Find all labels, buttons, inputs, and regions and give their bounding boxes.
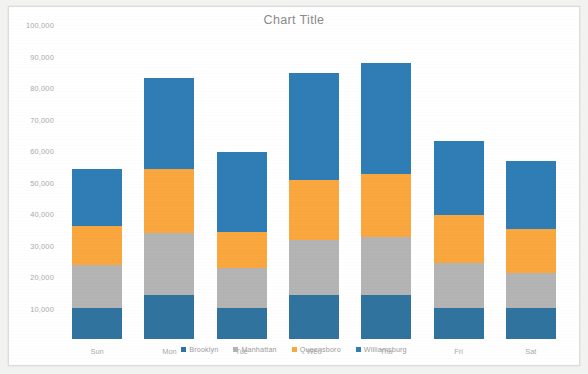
y-axis-tick-label: 90,000 bbox=[30, 52, 54, 61]
bar-segment-brooklyn[interactable] bbox=[506, 308, 556, 340]
legend-item-brooklyn[interactable]: Brooklyn bbox=[181, 345, 218, 354]
bar-segment-brooklyn[interactable] bbox=[361, 295, 411, 339]
bar-segment-manhattan[interactable] bbox=[217, 268, 267, 307]
legend-swatch-icon bbox=[356, 347, 361, 352]
bar-segment-queensboro[interactable] bbox=[72, 226, 122, 265]
bar-segment-williamsburg[interactable] bbox=[361, 63, 411, 173]
bar-series-area: SunMonTueWedThuFriSat bbox=[61, 25, 567, 340]
bar-segment-brooklyn[interactable] bbox=[289, 295, 339, 339]
bar-segment-queensboro[interactable] bbox=[144, 169, 194, 234]
bar-group[interactable]: Thu bbox=[360, 25, 412, 340]
bar-segment-williamsburg[interactable] bbox=[217, 152, 267, 232]
legend-swatch-icon bbox=[292, 347, 297, 352]
legend-label: Queensboro bbox=[300, 345, 341, 354]
bar-segment-manhattan[interactable] bbox=[434, 263, 484, 307]
bar-group[interactable]: Sat bbox=[505, 25, 557, 340]
bar-segment-williamsburg[interactable] bbox=[506, 161, 556, 229]
bar-segment-manhattan[interactable] bbox=[289, 240, 339, 295]
stacked-bar[interactable] bbox=[360, 62, 412, 340]
bar-segment-manhattan[interactable] bbox=[506, 273, 556, 308]
plot-area: 10,00020,00030,00040,00050,00060,00070,0… bbox=[61, 25, 567, 340]
bar-segment-manhattan[interactable] bbox=[361, 237, 411, 295]
bar-segment-brooklyn[interactable] bbox=[434, 308, 484, 340]
stacked-bar[interactable] bbox=[288, 72, 340, 340]
legend-label: Brooklyn bbox=[189, 345, 218, 354]
bar-segment-brooklyn[interactable] bbox=[144, 295, 194, 339]
legend-label: Williamsburg bbox=[364, 345, 407, 354]
bar-segment-williamsburg[interactable] bbox=[289, 73, 339, 180]
legend-item-manhattan[interactable]: Manhattan bbox=[233, 345, 276, 354]
bar-segment-queensboro[interactable] bbox=[361, 174, 411, 237]
bar-segment-williamsburg[interactable] bbox=[144, 78, 194, 169]
stacked-bar[interactable] bbox=[216, 151, 268, 340]
y-axis-tick-label: 70,000 bbox=[30, 115, 54, 124]
y-axis-tick-label: 50,000 bbox=[30, 178, 54, 187]
legend-item-queensboro[interactable]: Queensboro bbox=[292, 345, 341, 354]
legend-item-williamsburg[interactable]: Williamsburg bbox=[356, 345, 407, 354]
bar-segment-manhattan[interactable] bbox=[144, 233, 194, 294]
bar-segment-williamsburg[interactable] bbox=[72, 169, 122, 226]
bar-group[interactable]: Fri bbox=[433, 25, 485, 340]
bar-segment-manhattan[interactable] bbox=[72, 265, 122, 308]
bar-group[interactable]: Wed bbox=[288, 25, 340, 340]
y-axis-tick-label: 60,000 bbox=[30, 147, 54, 156]
y-axis-tick-label: 80,000 bbox=[30, 84, 54, 93]
bar-segment-queensboro[interactable] bbox=[506, 229, 556, 273]
stacked-bar[interactable] bbox=[71, 168, 123, 340]
bar-group[interactable]: Mon bbox=[143, 25, 195, 340]
bar-segment-williamsburg[interactable] bbox=[434, 141, 484, 215]
legend-swatch-icon bbox=[233, 347, 238, 352]
stacked-bar[interactable] bbox=[143, 77, 195, 340]
bar-segment-brooklyn[interactable] bbox=[217, 308, 267, 340]
stacked-bar[interactable] bbox=[505, 160, 557, 340]
chart-legend: BrooklynManhattanQueensboroWilliamsburg bbox=[9, 345, 579, 354]
bar-segment-queensboro[interactable] bbox=[434, 215, 484, 264]
y-axis-tick-label: 100,000 bbox=[26, 21, 54, 30]
bar-segment-queensboro[interactable] bbox=[289, 180, 339, 240]
y-axis-tick-label: 10,000 bbox=[30, 304, 54, 313]
bar-group[interactable]: Sun bbox=[71, 25, 123, 340]
bar-segment-queensboro[interactable] bbox=[217, 232, 267, 268]
legend-label: Manhattan bbox=[241, 345, 276, 354]
legend-swatch-icon bbox=[181, 347, 186, 352]
y-axis-tick-label: 40,000 bbox=[30, 210, 54, 219]
stacked-bar[interactable] bbox=[433, 140, 485, 340]
bar-segment-brooklyn[interactable] bbox=[72, 308, 122, 340]
bar-group[interactable]: Tue bbox=[216, 25, 268, 340]
y-axis-tick-label: 30,000 bbox=[30, 241, 54, 250]
y-axis-tick-label: 20,000 bbox=[30, 273, 54, 282]
chart-container[interactable]: Chart Title 10,00020,00030,00040,00050,0… bbox=[8, 6, 580, 366]
